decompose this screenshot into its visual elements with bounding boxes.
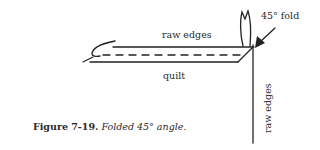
fold-loop [241, 11, 251, 46]
label-fold: 45° fold [261, 10, 299, 21]
strip-curled-end [92, 41, 115, 56]
figure-caption: Figure 7-19. Folded 45° angle. [33, 121, 186, 132]
caption-number: Figure 7-19. [33, 121, 98, 132]
label-quilt: quilt [163, 70, 185, 81]
caption-description: Folded 45° angle. [101, 121, 186, 132]
strip-left-tail [83, 57, 93, 62]
label-top-raw-edges: raw edges [162, 29, 212, 40]
fold-arrow-head-icon [255, 36, 265, 48]
fold-arrow-shaft [260, 28, 275, 42]
label-side-raw-edges: raw edges [262, 83, 273, 133]
